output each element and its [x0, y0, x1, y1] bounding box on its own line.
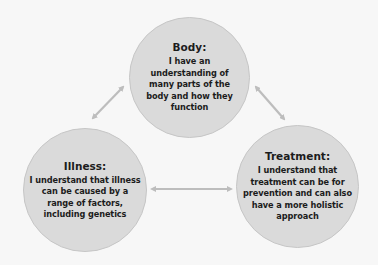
- node-description: I have an understanding of many parts of…: [140, 56, 240, 114]
- node-title: Body:: [173, 41, 207, 54]
- arrow-body-treatment: [256, 87, 284, 119]
- node-body: Body: I have an understanding of many pa…: [129, 17, 250, 138]
- arrow-body-illness: [93, 87, 123, 118]
- node-description: I understand that illness can be caused …: [29, 175, 141, 221]
- node-illness: Illness: I understand that illness can b…: [23, 128, 147, 252]
- node-description: I understand that treatment can be for p…: [243, 165, 353, 223]
- node-title: Treatment:: [265, 150, 330, 163]
- knowledge-cycle-diagram: Body: I have an understanding of many pa…: [0, 0, 378, 265]
- node-title: Illness:: [64, 160, 106, 173]
- node-treatment: Treatment: I understand that treatment c…: [236, 125, 359, 248]
